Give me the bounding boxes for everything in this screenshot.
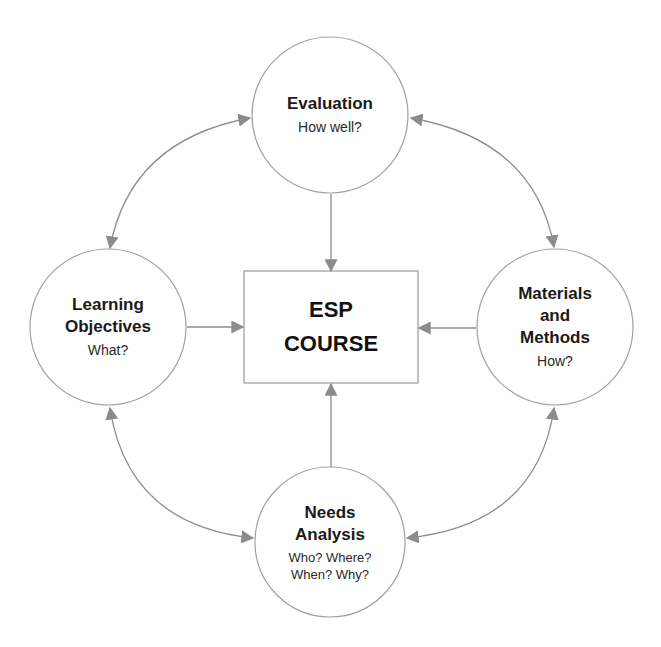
arrow-evaluation-objectives [110,118,250,248]
learning-objectives-label: Learning Objectives What? [30,249,186,405]
arrow-evaluation-materials [411,118,554,247]
arrow-materials-needs [407,408,554,538]
learning-objectives-subtitle: What? [88,341,128,360]
materials-methods-title-1: Materials [518,283,592,305]
arrow-objectives-needs [110,408,253,538]
learning-objectives-title-1: Learning [72,294,144,316]
evaluation-subtitle: How well? [298,118,362,137]
learning-objectives-title-2: Objectives [65,316,151,338]
evaluation-label: Evaluation How well? [252,37,408,193]
materials-methods-subtitle: How? [537,352,573,371]
evaluation-title: Evaluation [287,93,373,115]
esp-course-line1: ESP [309,293,353,327]
materials-methods-title-3: Methods [520,327,590,349]
needs-analysis-title-2: Analysis [295,524,365,546]
materials-methods-label: Materials and Methods How? [477,249,633,405]
esp-course-line2: COURSE [284,327,378,361]
esp-course-label: ESP COURSE [244,271,418,383]
materials-methods-title-2: and [540,305,570,327]
needs-analysis-subtitle-1: Who? Where? [288,549,371,566]
needs-analysis-title-1: Needs [304,502,355,524]
needs-analysis-label: Needs Analysis Who? Where? When? Why? [255,467,405,617]
needs-analysis-subtitle-2: When? Why? [291,566,369,583]
